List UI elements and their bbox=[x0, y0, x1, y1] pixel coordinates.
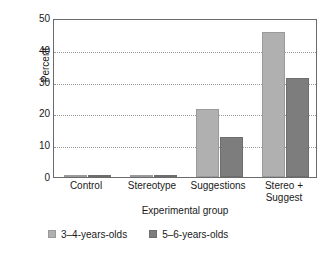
y-tick-label: 40 bbox=[24, 46, 50, 56]
bar-group bbox=[252, 20, 318, 177]
x-tick-label: Stereo +Suggest bbox=[243, 180, 325, 204]
bar-group bbox=[120, 20, 186, 177]
bar bbox=[220, 137, 243, 177]
bar bbox=[196, 109, 219, 177]
plot-area bbox=[53, 19, 317, 178]
y-tick-label: 10 bbox=[24, 141, 50, 151]
legend-item[interactable]: 5–6-years-olds bbox=[149, 229, 228, 240]
bar bbox=[130, 175, 153, 177]
x-tick-label-line: Stereo + bbox=[265, 180, 303, 191]
bar bbox=[64, 175, 87, 177]
bar bbox=[286, 78, 309, 177]
x-tick-label-line: Suggestions bbox=[190, 180, 245, 191]
bar bbox=[262, 32, 285, 177]
bar-chart: Percent 01020304050 ControlStereotypeSug… bbox=[0, 0, 334, 253]
legend-swatch-icon bbox=[149, 230, 157, 238]
y-tick-label: 50 bbox=[24, 14, 50, 24]
x-tick-label-line: Control bbox=[70, 180, 102, 191]
y-tick-label: 20 bbox=[24, 109, 50, 119]
y-tick-label: 30 bbox=[24, 78, 50, 88]
y-axis-tick-labels: 01020304050 bbox=[24, 0, 50, 253]
x-axis-title: Experimental group bbox=[53, 205, 317, 217]
legend-swatch-icon bbox=[48, 230, 56, 238]
bar bbox=[88, 175, 111, 177]
legend-label: 3–4-years-olds bbox=[61, 229, 127, 240]
bar bbox=[154, 175, 177, 177]
legend-label: 5–6-years-olds bbox=[162, 229, 228, 240]
legend: 3–4-years-olds5–6-years-olds bbox=[48, 227, 250, 241]
x-tick-label-line: Stereotype bbox=[128, 180, 176, 191]
bar-group bbox=[186, 20, 252, 177]
bars-layer bbox=[54, 20, 316, 177]
legend-item[interactable]: 3–4-years-olds bbox=[48, 229, 127, 240]
x-tick-label-line: Suggest bbox=[243, 192, 325, 204]
bar-group bbox=[54, 20, 120, 177]
